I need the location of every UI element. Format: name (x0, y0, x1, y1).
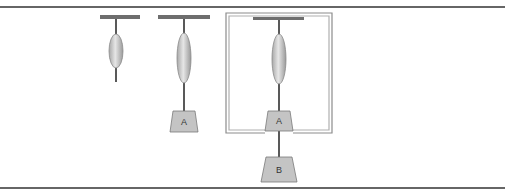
weight-a-label: A (276, 116, 282, 126)
weight-b-label: B (276, 165, 282, 175)
setup-unloaded (100, 15, 140, 82)
ceiling-bar (158, 15, 210, 19)
ceiling-bar (253, 17, 304, 20)
ceiling-bar (100, 15, 140, 19)
setup-boxed-a-with-b: A B (226, 13, 332, 182)
spring-body (177, 33, 191, 83)
setup-loaded-a: A (158, 15, 210, 132)
spring-body (109, 34, 123, 68)
spring-body (272, 34, 286, 84)
weight-a-label: A (181, 117, 187, 127)
spring-diagram: A A B (0, 0, 505, 196)
